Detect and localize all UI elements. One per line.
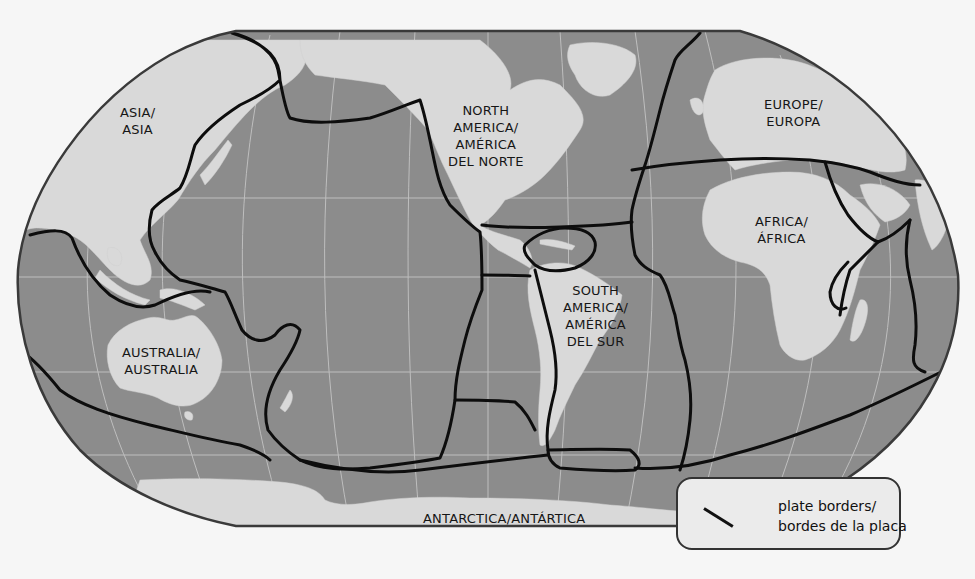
label-south-america: SOUTH AMERICA/ AMÉRICA DEL SUR xyxy=(563,282,628,350)
label-australia: AUSTRALIA/ AUSTRALIA xyxy=(122,344,200,378)
label-asia: ASIA/ ASIA xyxy=(120,104,155,138)
label-africa: AFRICA/ ÁFRICA xyxy=(755,213,808,247)
label-north-america: NORTH AMERICA/ AMÉRICA DEL NORTE xyxy=(448,102,524,170)
label-antarctica: ANTARCTICA/ANTÁRTICA xyxy=(423,510,585,527)
legend-text: plate borders/ bordes de la placa xyxy=(778,496,907,536)
label-europe: EUROPE/ EUROPA xyxy=(764,96,823,130)
legend: plate borders/ bordes de la placa xyxy=(676,477,901,550)
plate-border-line-icon xyxy=(703,507,733,528)
